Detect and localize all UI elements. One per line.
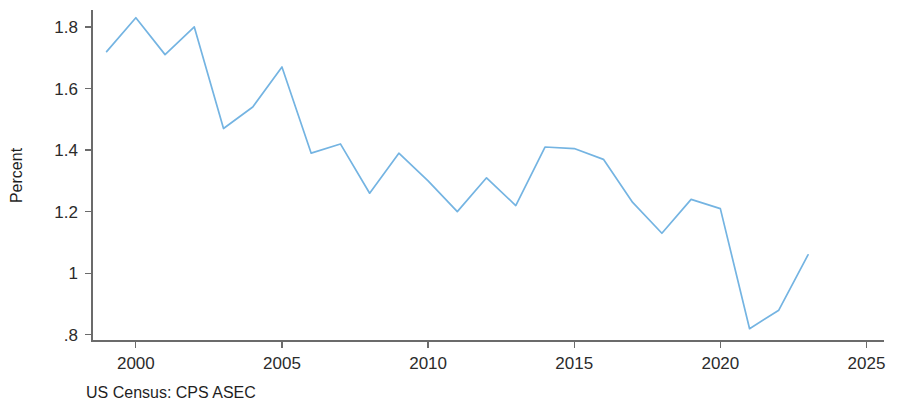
y-axis-tick-label: 1.8	[54, 18, 78, 37]
x-axis-tick-label: 2000	[117, 354, 155, 373]
data-series-line	[107, 18, 808, 329]
x-axis-tick-label: 2005	[263, 354, 301, 373]
y-axis-tick-label: .8	[64, 326, 78, 345]
x-axis: 200020052010201520202025	[117, 341, 885, 373]
source-note: US Census: CPS ASEC	[86, 384, 256, 401]
y-axis-tick-label: 1.4	[54, 141, 78, 160]
chart-container: .811.21.41.61.8 200020052010201520202025…	[0, 0, 905, 410]
x-axis-tick-label: 2015	[555, 354, 593, 373]
y-axis-tick-label: 1.2	[54, 203, 78, 222]
x-axis-tick-label: 2010	[409, 354, 447, 373]
x-axis-tick-label: 2020	[701, 354, 739, 373]
y-axis-tick-label: 1.6	[54, 80, 78, 99]
line-chart: .811.21.41.61.8 200020052010201520202025…	[0, 0, 905, 410]
axis-spine	[92, 10, 884, 341]
y-axis: .811.21.41.61.8	[54, 18, 92, 345]
y-axis-title: Percent	[8, 147, 25, 203]
x-axis-tick-label: 2025	[848, 354, 886, 373]
y-axis-tick-label: 1	[69, 264, 78, 283]
